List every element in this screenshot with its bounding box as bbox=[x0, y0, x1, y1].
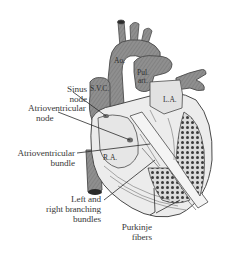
callout-purkinje-fibers-line1: Purkinje bbox=[122, 222, 152, 232]
callout-sinus-node-line1: Sinus bbox=[67, 84, 87, 94]
label-aorta: Ao. bbox=[114, 57, 125, 65]
callout-purkinje-fibers-line2: fibers bbox=[122, 232, 152, 242]
heart-conduction-diagram: Ao. Pul. art. S.V.C. L.A. R.A. Sinus nod… bbox=[0, 0, 240, 257]
callout-av-node-line2: node bbox=[28, 113, 86, 123]
callout-av-bundle-line1: Atrioventricular bbox=[17, 148, 75, 158]
callout-av-bundle-line2: bundle bbox=[17, 158, 75, 168]
label-superior-vena-cava: S.V.C. bbox=[90, 85, 109, 93]
callout-branching-bundles-line1: Left and bbox=[46, 194, 101, 204]
callout-av-node-line1: Atrioventricular bbox=[28, 103, 86, 113]
label-left-atrium: L.A. bbox=[163, 96, 177, 104]
callout-branching-bundles-line3: bundles bbox=[46, 214, 101, 224]
callout-av-bundle: Atrioventricular bundle bbox=[17, 148, 75, 168]
callout-branching-bundles: Left and right branching bundles bbox=[46, 194, 101, 224]
label-pulmonary-artery-2: art. bbox=[138, 77, 148, 85]
label-right-atrium: R.A. bbox=[103, 154, 117, 162]
heart-illustration bbox=[0, 0, 240, 257]
callout-av-node: Atrioventricular node bbox=[28, 103, 86, 123]
callout-branching-bundles-line2: right branching bbox=[46, 204, 101, 214]
callout-purkinje-fibers: Purkinje fibers bbox=[122, 222, 152, 242]
callout-sinus-node: Sinus node bbox=[67, 84, 87, 104]
